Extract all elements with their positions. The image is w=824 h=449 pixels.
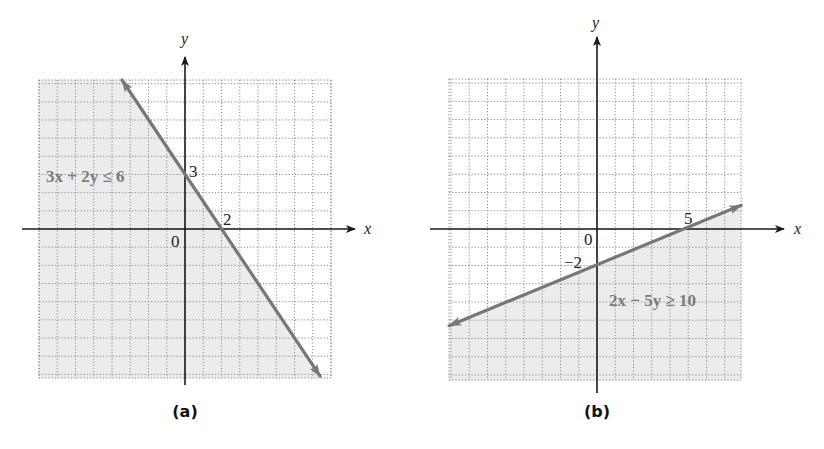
graph-b: x y 0 5 −2 2x − 5y ≥ 10 (b)	[430, 14, 801, 421]
inequality-label: 2x − 5y ≥ 10	[609, 291, 696, 310]
shaded-region	[449, 208, 741, 381]
caption: (a)	[172, 402, 197, 421]
x-intercept-label: 2	[223, 210, 232, 229]
origin-label: 0	[584, 230, 593, 249]
origin-label: 0	[171, 232, 180, 251]
figure: x y 0 3 2 3x + 2y ≤ 6 (a) x y 0 5 −2 2x …	[0, 0, 824, 449]
y-axis-label: y	[590, 14, 600, 32]
x-axis-label: x	[793, 220, 801, 237]
inequality-label: 3x + 2y ≤ 6	[46, 167, 125, 186]
y-intercept-label: 3	[189, 162, 198, 181]
x-intercept-label: 5	[684, 209, 693, 228]
y-intercept-label: −2	[564, 253, 582, 272]
graph-a: x y 0 3 2 3x + 2y ≤ 6 (a)	[22, 30, 371, 421]
caption: (b)	[584, 402, 610, 421]
y-axis-label: y	[179, 30, 189, 48]
x-axis-label: x	[363, 220, 371, 237]
